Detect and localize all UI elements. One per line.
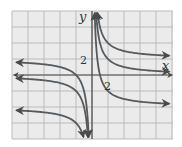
y-tick-label: 2 — [80, 54, 87, 67]
y-axis-label: y — [78, 9, 87, 24]
x-axis-label: x — [162, 58, 170, 73]
x-tick-label: 2 — [104, 80, 111, 93]
hyperbola-graph: y x 2 2 — [0, 0, 182, 147]
